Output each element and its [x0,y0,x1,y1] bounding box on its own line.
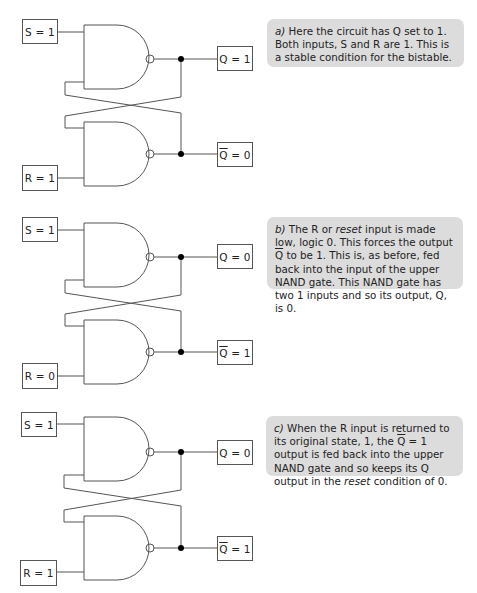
panel-c: S = 1 R = 1 Q = 0 Q = 1 c) When the R in… [0,396,477,593]
s-input-label: S = 1 [22,217,58,242]
explanation-note-a: a) Here the circuit has Q set to 1. Both… [267,19,464,67]
note-label: c) [274,422,284,434]
q-junction-dot [178,254,184,260]
q-junction-dot [178,449,184,455]
lower-inverter-bubble [146,150,154,158]
lower-nand-gate [84,516,149,580]
s-input-label: S = 1 [21,412,57,437]
note-label: b) [275,223,286,235]
upper-inverter-bubble [146,448,154,456]
panel-b: S = 1 R = 0 Q = 0 Q = 1 b) The R or rese… [0,198,477,395]
qbar-value: = 1 [231,347,250,359]
q-output-label: Q = 1 [217,46,253,71]
r-input-label: R = 1 [22,165,58,191]
note-text: condition of 0. [370,475,447,487]
qbar-symbol: Q [219,543,227,555]
upper-inverter-bubble [146,253,154,261]
explanation-note-c: c) When the R input is returned to its o… [266,416,463,476]
qbar-value: = 0 [231,149,250,161]
qbar-output-label: Q = 1 [217,536,253,561]
qbar-symbol: Q [219,149,227,161]
q-junction-dot [178,56,184,62]
qbar-value: = 1 [231,543,250,555]
qbar-junction-dot [178,151,184,157]
note-label: a) [275,25,285,37]
upper-inverter-bubble [146,55,154,63]
note-qbar-symbol: Q [275,249,283,261]
note-text: to be 1. This is, as before, fed back in… [275,249,447,314]
upper-nand-gate [84,417,149,481]
lower-inverter-bubble [146,544,154,552]
lower-nand-gate [84,320,149,384]
explanation-note-b: b) The R or reset input is made low, log… [267,217,463,289]
qbar-output-label: Q = 0 [217,142,253,167]
qbar-junction-dot [178,349,184,355]
upper-nand-gate [84,223,149,287]
lower-nand-gate [84,122,149,186]
r-input-label: R = 1 [20,560,57,586]
lower-inverter-bubble [146,348,154,356]
note-text: Here the circuit has Q set to 1. Both in… [275,25,452,63]
q-output-label: Q = 0 [217,244,253,269]
qbar-output-label: Q = 1 [217,340,253,365]
qbar-symbol: Q [219,347,227,359]
panel-a: S = 1 R = 1 Q = 1 Q = 0 a) Here the circ… [0,0,477,197]
note-text: The R or [289,223,336,235]
note-emphasis: reset [336,223,362,235]
note-emphasis: reset [344,475,370,487]
s-input-label: S = 1 [22,19,58,44]
qbar-junction-dot [178,545,184,551]
r-input-label: R = 0 [22,363,58,389]
upper-nand-gate [84,25,149,89]
q-output-label: Q = 0 [217,440,253,465]
